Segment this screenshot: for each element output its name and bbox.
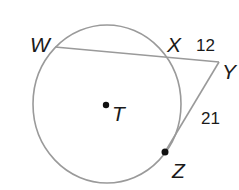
label-y: Y	[222, 60, 238, 83]
diagram-canvas: W X 12 Y T 21 Z	[0, 0, 239, 190]
label-x: X	[166, 33, 182, 56]
length-yz: 21	[201, 109, 220, 128]
geometry-diagram: W X 12 Y T 21 Z	[0, 0, 239, 190]
label-w: W	[30, 33, 52, 56]
label-z: Z	[171, 159, 186, 182]
point-dot-z	[162, 149, 169, 156]
center-dot-t	[103, 102, 109, 108]
length-xy: 12	[196, 36, 215, 55]
tangent-yz	[165, 62, 219, 152]
secant-wy	[55, 47, 219, 62]
label-t: T	[112, 102, 127, 125]
